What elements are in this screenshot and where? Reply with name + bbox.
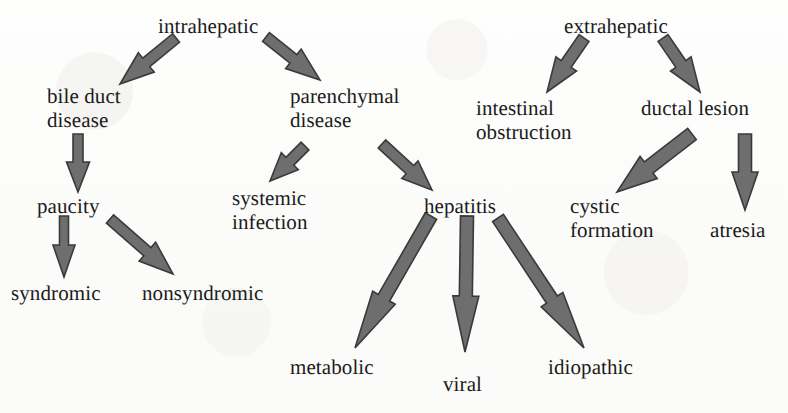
node-intrahepatic-line-1: intrahepatic — [158, 14, 258, 38]
arrow-parenchymal-disease-to-systemic-infection — [270, 142, 309, 181]
arrow-hepatitis-to-metabolic — [355, 213, 437, 348]
node-parenchymal-disease: parenchymaldisease — [290, 84, 400, 132]
node-systemic-infection-line-1: systemic — [232, 186, 308, 210]
arrow-bile-duct-disease-to-paucity — [67, 134, 90, 192]
arrow-extrahepatic-to-intestinal-obstruction — [547, 35, 589, 92]
node-hepatitis-line-1: hepatitis — [424, 194, 496, 218]
node-syndromic-line-1: syndromic — [11, 281, 101, 305]
arrow-ductal-lesion-to-atresia — [732, 134, 758, 210]
arrow-parenchymal-disease-to-hepatitis — [378, 140, 432, 190]
arrow-layer — [0, 0, 788, 413]
arrow-paucity-to-nonsyndromic — [106, 215, 173, 274]
node-bile-duct-disease: bile ductdisease — [47, 84, 121, 132]
node-intestinal-obstruction-line-1: intestinal — [476, 96, 572, 120]
node-extrahepatic: extrahepatic — [564, 14, 668, 38]
arrow-ductal-lesion-to-cystic-formation — [617, 128, 696, 192]
node-metabolic-line-1: metabolic — [290, 355, 374, 379]
node-nonsyndromic-line-1: nonsyndromic — [142, 281, 263, 305]
node-intestinal-obstruction-line-2: obstruction — [476, 120, 572, 144]
node-parenchymal-disease-line-2: disease — [290, 108, 400, 132]
arrow-paucity-to-syndromic — [53, 216, 75, 277]
node-idiopathic: idiopathic — [548, 355, 633, 379]
diagram-canvas: intrahepaticextrahepaticbile ductdisease… — [0, 0, 788, 413]
arrow-hepatitis-to-viral — [453, 216, 479, 352]
node-systemic-infection-line-2: infection — [232, 210, 308, 234]
node-parenchymal-disease-line-1: parenchymal — [290, 84, 400, 108]
node-metabolic: metabolic — [290, 355, 374, 379]
arrow-extrahepatic-to-ductal-lesion — [658, 35, 700, 92]
node-systemic-infection: systemicinfection — [232, 186, 308, 234]
node-idiopathic-line-1: idiopathic — [548, 355, 633, 379]
node-bile-duct-disease-line-1: bile duct — [47, 84, 121, 108]
node-viral: viral — [443, 372, 482, 396]
node-intestinal-obstruction: intestinalobstruction — [476, 96, 572, 144]
node-intrahepatic: intrahepatic — [158, 14, 258, 38]
node-ductal-lesion-line-1: ductal lesion — [641, 96, 749, 120]
node-cystic-formation-line-1: cystic — [570, 194, 654, 218]
node-cystic-formation: cysticformation — [570, 194, 654, 242]
node-hepatitis: hepatitis — [424, 194, 496, 218]
node-syndromic: syndromic — [11, 281, 101, 305]
node-paucity-line-1: paucity — [37, 194, 100, 218]
node-nonsyndromic: nonsyndromic — [142, 281, 263, 305]
node-extrahepatic-line-1: extrahepatic — [564, 14, 668, 38]
node-paucity: paucity — [37, 194, 100, 218]
node-viral-line-1: viral — [443, 372, 482, 396]
node-atresia: atresia — [710, 218, 766, 242]
node-bile-duct-disease-line-2: disease — [47, 108, 121, 132]
arrow-intrahepatic-to-bile-duct-disease — [120, 34, 179, 84]
node-cystic-formation-line-2: formation — [570, 218, 654, 242]
arrow-intrahepatic-to-parenchymal-disease — [263, 33, 320, 80]
node-atresia-line-1: atresia — [710, 218, 766, 242]
node-ductal-lesion: ductal lesion — [641, 96, 749, 120]
